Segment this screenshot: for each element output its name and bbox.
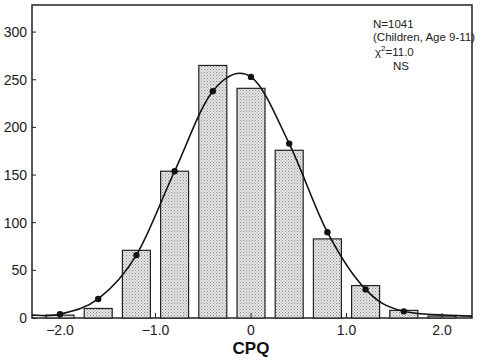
histogram-chart: 050100150200250300 −2.0−1.001.02.0 CPQ N…	[0, 0, 481, 364]
curve-point	[210, 88, 216, 94]
annotation-group: (Children, Age 9-11)	[373, 31, 475, 43]
annotation-significance: NS	[393, 60, 409, 72]
curve-point	[95, 296, 101, 302]
y-axis: 050100150200250300	[4, 24, 36, 326]
x-tick-label: −1.0	[142, 322, 170, 338]
annotation-box: N=1041 (Children, Age 9-11) χ2=11.0 NS	[373, 18, 475, 72]
histogram-bar	[122, 250, 150, 318]
bars-group	[46, 65, 456, 318]
x-tick-label: 2.0	[432, 322, 452, 338]
y-tick-label: 300	[4, 24, 28, 40]
x-tick-label: −2.0	[46, 322, 74, 338]
y-tick-label: 50	[11, 262, 27, 278]
curve-point	[286, 140, 292, 146]
x-tick-label: 1.0	[337, 322, 357, 338]
y-tick-label: 100	[4, 215, 28, 231]
annotation-n: N=1041	[373, 18, 414, 30]
curve-point	[362, 286, 368, 292]
annotation-chi: χ2=11.0	[375, 44, 414, 58]
histogram-bar	[237, 88, 265, 318]
y-tick-label: 0	[19, 310, 27, 326]
x-tick-label: 0	[247, 322, 255, 338]
y-tick-label: 200	[4, 119, 28, 135]
curve-point	[401, 308, 407, 314]
curve-point	[324, 229, 330, 235]
curve-points	[57, 74, 407, 318]
histogram-bar	[275, 150, 303, 318]
curve-point	[248, 74, 254, 80]
y-tick-label: 250	[4, 72, 28, 88]
histogram-bar	[199, 65, 227, 318]
curve-point	[133, 252, 139, 258]
y-tick-label: 150	[4, 167, 28, 183]
x-axis-label: CPQ	[233, 339, 270, 358]
curve-point	[171, 168, 177, 174]
histogram-bar	[84, 308, 112, 318]
